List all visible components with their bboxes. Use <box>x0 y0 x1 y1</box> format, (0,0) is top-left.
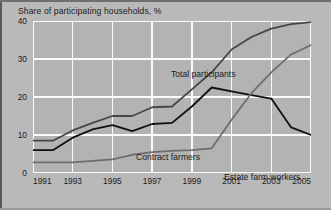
series-label-total-participants: Total participants <box>171 69 236 79</box>
y-tick-0: 0 <box>22 168 27 178</box>
x-tick-2005: 2005 <box>292 176 311 186</box>
x-tick-1997: 1997 <box>143 176 162 186</box>
plot-area: Total participants Contract farmers Esta… <box>33 21 311 173</box>
series-line-contract-farmers <box>33 88 311 151</box>
x-tick-1999: 1999 <box>183 176 202 186</box>
y-tick-10: 10 <box>18 130 27 140</box>
series-line-estate-farm-workers <box>33 45 311 162</box>
y-tick-40: 40 <box>18 16 27 26</box>
figure-border-top <box>0 0 331 2</box>
figure-border-bottom <box>0 208 331 210</box>
x-tick-1995: 1995 <box>103 176 122 186</box>
y-axis-tick-labels: 010203040 <box>0 21 31 173</box>
x-axis-tick-labels: 19911993199519971999200120032005 <box>33 176 311 190</box>
x-tick-1993: 1993 <box>63 176 82 186</box>
y-tick-30: 30 <box>18 54 27 64</box>
x-tick-1991: 1991 <box>33 176 52 186</box>
chart-figure: Share of participating households, % 010… <box>0 0 331 210</box>
x-tick-2001: 2001 <box>222 176 241 186</box>
x-tick-2003: 2003 <box>262 176 281 186</box>
series-label-contract-farmers: Contract farmers <box>136 152 200 162</box>
series-lines <box>33 21 311 173</box>
y-tick-20: 20 <box>18 92 27 102</box>
chart-title: Share of participating households, % <box>18 6 162 16</box>
